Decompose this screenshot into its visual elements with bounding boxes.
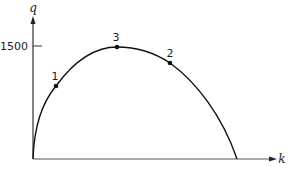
point-1 [54,84,59,89]
point-2-label: 2 [167,47,174,60]
point-1-label: 1 [52,70,59,83]
x-axis-label: k [278,152,285,166]
y-axis-label: q [29,1,37,15]
point-2 [168,61,173,66]
x-axis-arrow-icon [269,157,277,162]
y-tick-label: 1500 [0,40,28,53]
point-3-label: 3 [113,31,120,44]
curve [33,47,237,159]
chart: 1500 q k 1 3 2 [0,0,289,174]
point-3 [115,45,120,50]
y-axis-arrow-icon [31,16,36,24]
